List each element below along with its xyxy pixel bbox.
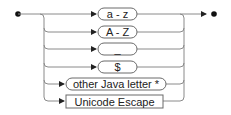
- railroad-diagram: a - z A - Z _ $ other Java letter * Unic…: [0, 0, 231, 115]
- label-a-z: a - z: [107, 8, 128, 20]
- label-A-Z: A - Z: [106, 26, 130, 38]
- label-dollar: $: [114, 61, 120, 73]
- label-underscore: _: [113, 43, 121, 55]
- label-other-java-letter: other Java letter *: [73, 78, 160, 90]
- end-dot-icon: [211, 11, 217, 17]
- label-unicode-escape: Unicode Escape: [74, 96, 154, 108]
